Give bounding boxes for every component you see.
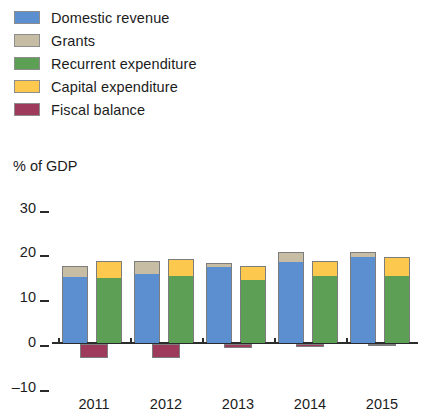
x-axis-tick-label-2014: 2014: [294, 396, 326, 412]
bar-segment-capital-expenditure-2015: [385, 258, 409, 276]
bar-segment-capital-expenditure-2012: [169, 260, 193, 276]
bar-revenue-2014: [278, 252, 304, 342]
y-axis-tick-label: 0: [4, 334, 36, 350]
bar-segment-capital-expenditure-2014: [313, 262, 337, 275]
bar-segment-capital-expenditure-2013: [241, 267, 265, 280]
x-axis-tick-label-2012: 2012: [150, 396, 182, 412]
bar-fiscal-balance-2014: [296, 344, 324, 347]
x-axis-tick-mark: [130, 338, 132, 343]
bar-expenditure-2013: [240, 266, 266, 342]
bar-segment-domestic-revenue-2011: [63, 277, 87, 343]
y-axis-tick-label: 20: [4, 244, 36, 260]
bar-segment-domestic-revenue-2012: [135, 274, 159, 343]
bar-segment-grants-2014: [279, 253, 303, 262]
x-axis-tick-mark: [346, 338, 348, 343]
bar-revenue-2015: [350, 252, 376, 342]
bar-expenditure-2015: [384, 257, 410, 342]
bar-segment-grants-2011: [63, 267, 87, 277]
bar-segment-recurrent-expenditure-2015: [385, 276, 409, 343]
bar-segment-recurrent-expenditure-2011: [97, 278, 121, 343]
y-axis-tick-mark: [40, 211, 49, 213]
y-axis-tick-mark: [40, 345, 49, 347]
bar-expenditure-2012: [168, 259, 194, 342]
y-axis-tick-mark: [40, 300, 49, 302]
bar-expenditure-2014: [312, 261, 338, 342]
y-axis-tick-label: 10: [4, 289, 36, 305]
x-axis-tick-mark: [274, 338, 276, 343]
y-axis-tick-mark: [40, 390, 49, 392]
bar-fiscal-balance-2011: [80, 344, 108, 358]
bar-expenditure-2011: [96, 261, 122, 342]
bar-fiscal-balance-2015: [368, 344, 396, 346]
bar-fiscal-balance-2012: [152, 344, 180, 358]
bar-segment-recurrent-expenditure-2013: [241, 280, 265, 343]
x-axis-tick-label-2013: 2013: [222, 396, 254, 412]
bar-segment-domestic-revenue-2015: [351, 257, 375, 343]
bar-revenue-2011: [62, 266, 88, 342]
bar-segment-domestic-revenue-2014: [279, 262, 303, 343]
bar-segment-recurrent-expenditure-2012: [169, 276, 193, 343]
y-axis-tick-mark: [40, 255, 49, 257]
bar-revenue-2012: [134, 261, 160, 342]
bar-segment-grants-2012: [135, 262, 159, 273]
x-axis-tick-mark: [58, 338, 60, 343]
bar-segment-recurrent-expenditure-2014: [313, 276, 337, 343]
x-axis-tick-label-2011: 2011: [78, 396, 109, 412]
y-axis-tick-label: 30: [4, 200, 36, 216]
x-axis-tick-mark: [202, 338, 204, 343]
bar-fiscal-balance-2013: [224, 344, 252, 348]
bar-segment-domestic-revenue-2013: [207, 267, 231, 343]
bar-segment-capital-expenditure-2011: [97, 262, 121, 278]
y-axis-tick-label: –10: [4, 379, 36, 395]
x-axis-tick-label-2015: 2015: [366, 396, 398, 412]
bar-revenue-2013: [206, 263, 232, 342]
bar-chart-plot: 3020100–1020112012201320142015: [0, 0, 423, 417]
